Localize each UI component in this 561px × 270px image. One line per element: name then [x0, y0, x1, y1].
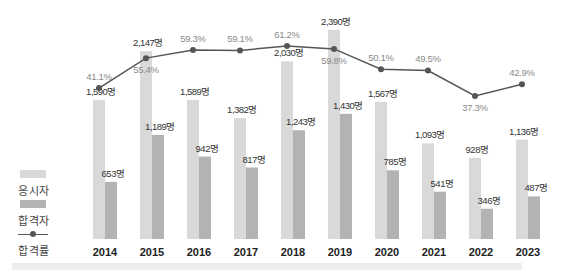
rate-point — [143, 55, 149, 61]
rate-value-label: 55.4% — [133, 64, 159, 75]
rate-value-label: 61.2% — [274, 29, 300, 40]
rate-value-label: 41.1% — [86, 71, 112, 82]
rate-point — [237, 47, 243, 53]
passed-value-label: 1,243명 — [286, 116, 316, 127]
x-tick-label: 2018 — [281, 246, 305, 258]
rate-value-label: 37.3% — [462, 102, 488, 113]
passed-value-label: 346명 — [478, 195, 501, 206]
rate-value-label: 59.8% — [321, 55, 347, 66]
x-tick-label: 2016 — [187, 246, 211, 258]
rate-point — [96, 85, 102, 91]
bar-applicants — [140, 51, 152, 239]
rate-point — [519, 81, 525, 87]
passed-value-label: 942명 — [196, 143, 219, 154]
rate-line — [99, 46, 522, 96]
bar-applicants — [234, 118, 246, 239]
rate-value-label: 50.1% — [368, 52, 394, 63]
bar-passed — [293, 130, 305, 239]
passed-value-label: 541명 — [431, 178, 454, 189]
passed-value-label: 653명 — [102, 168, 125, 179]
applicants-value-label: 1,567명 — [368, 88, 398, 99]
bar-passed — [105, 182, 117, 239]
applicants-value-label: 1,136명 — [509, 126, 539, 137]
passed-value-label: 785명 — [384, 156, 407, 167]
rate-value-label: 49.5% — [415, 53, 441, 64]
x-tick-label: 2019 — [328, 246, 352, 258]
x-tick-label: 2021 — [422, 246, 446, 258]
bar-passed — [387, 170, 399, 239]
rate-value-label: 59.1% — [227, 33, 253, 44]
bar-passed — [340, 114, 352, 239]
x-tick-label: 2020 — [375, 246, 399, 258]
bar-passed — [199, 157, 211, 239]
rate-value-label: 59.3% — [180, 33, 206, 44]
x-tick-label: 2014 — [93, 246, 118, 258]
applicants-value-label: 1,589명 — [180, 86, 210, 97]
bar-passed — [152, 135, 164, 239]
passed-value-label: 817명 — [243, 154, 266, 165]
x-tick-label: 2022 — [469, 246, 493, 258]
x-tick-label: 2023 — [516, 246, 540, 258]
bar-applicants — [422, 143, 434, 239]
bar-passed — [528, 196, 540, 239]
passed-value-label: 487명 — [525, 182, 548, 193]
bar-applicants — [187, 100, 199, 239]
passed-value-label: 1,430명 — [333, 100, 363, 111]
rate-point — [425, 67, 431, 73]
bar-passed — [481, 209, 493, 239]
rate-point — [284, 43, 290, 49]
applicants-value-label: 1,382명 — [227, 104, 257, 115]
x-tick-label: 2015 — [140, 246, 164, 258]
applicants-value-label: 2,147명 — [133, 37, 163, 48]
bar-applicants — [375, 102, 387, 239]
bar-passed — [434, 192, 446, 239]
rate-point — [472, 93, 478, 99]
passed-value-label: 1,189명 — [145, 121, 175, 132]
rate-point — [190, 47, 196, 53]
rate-point — [331, 46, 337, 52]
applicants-value-label: 1,093명 — [415, 129, 445, 140]
footer-band — [12, 263, 522, 270]
bar-line-chart: 20141,590명653명20152,147명1,189명20161,589명… — [0, 0, 561, 270]
rate-point — [378, 66, 384, 72]
applicants-value-label: 2,030명 — [274, 47, 304, 58]
rate-value-label: 42.9% — [509, 67, 535, 78]
bar-applicants — [281, 61, 293, 239]
applicants-value-label: 2,390명 — [321, 16, 351, 27]
bar-passed — [246, 168, 258, 239]
applicants-value-label: 928명 — [466, 144, 489, 155]
x-tick-label: 2017 — [234, 246, 258, 258]
